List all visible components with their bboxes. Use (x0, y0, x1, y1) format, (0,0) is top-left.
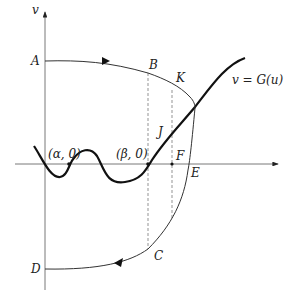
curve-label: v = G(u) (232, 73, 283, 87)
label-d: D (30, 262, 41, 276)
label-beta: (β, 0) (116, 147, 148, 161)
upper-trajectory (45, 61, 195, 108)
label-b: B (148, 58, 158, 72)
point-alpha (67, 162, 71, 166)
point-f (170, 162, 173, 165)
phase-plane-diagram: v A B K v = G(u) J (α, 0) (β, 0) F E C D (0, 0, 293, 300)
label-k: K (175, 71, 186, 85)
label-j: J (155, 125, 164, 139)
label-a: A (30, 54, 40, 68)
label-c: C (154, 249, 163, 263)
label-alpha: (α, 0) (48, 147, 81, 161)
v-axis-label: v (32, 3, 39, 17)
label-e: E (190, 166, 200, 180)
point-beta (146, 162, 150, 166)
label-f: F (175, 149, 185, 163)
arrow-left-icon (114, 258, 123, 267)
